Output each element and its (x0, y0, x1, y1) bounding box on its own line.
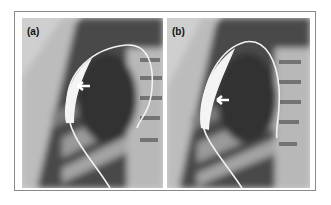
panel-a-radiograph: (a) (22, 18, 163, 188)
panel-a-label: (a) (27, 26, 39, 37)
panel-b-label: (b) (172, 26, 185, 37)
panel-b-radiograph: (b) (167, 18, 310, 188)
radiograph-b-image (167, 18, 310, 188)
radiograph-a-image (22, 18, 163, 188)
